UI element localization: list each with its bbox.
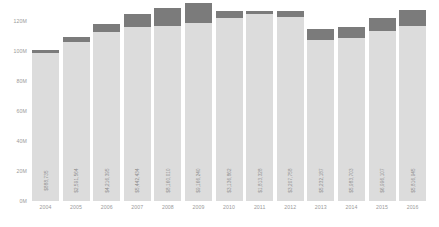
y-axis-tick-label: 60M (1, 108, 27, 114)
table-row[interactable]: $5,442,434 (124, 14, 151, 201)
table-row[interactable]: $3,207,758 (277, 11, 304, 201)
x-axis-tick-label: 2006 (93, 203, 120, 217)
y-axis-tick-label: 40M (1, 138, 27, 144)
plot-area: $888,735$2,591,564$4,216,395$5,442,434$8… (32, 6, 431, 201)
y-axis-tick-label: 100M (1, 48, 27, 54)
bar-value-label: $8,160,010 (165, 168, 170, 193)
bar-slot: $9,166,240 (185, 6, 212, 201)
bar-slot: $6,996,107 (369, 6, 396, 201)
bar-segment-base[interactable]: $4,216,395 (93, 32, 120, 201)
bar-value-label: $1,813,328 (257, 168, 262, 193)
y-axis-tick-label: 80M (1, 78, 27, 84)
y-axis-tick-label: 0M (1, 198, 27, 204)
table-row[interactable]: $3,136,862 (216, 11, 243, 202)
x-axis-tick-label: 2015 (369, 203, 396, 217)
table-row[interactable]: $5,232,187 (307, 29, 334, 202)
bar-slot: $5,816,945 (399, 6, 426, 201)
bar-segment-top[interactable] (369, 18, 396, 31)
x-axis-tick-label: 2012 (277, 203, 304, 217)
x-axis-tick-label: 2004 (32, 203, 59, 217)
x-axis-tick-label: 2011 (246, 203, 273, 217)
bar-value-label: $4,216,395 (104, 168, 109, 193)
table-row[interactable]: $888,735 (32, 50, 59, 201)
x-axis-tick-label: 2008 (154, 203, 181, 217)
bar-value-label: $5,442,434 (135, 168, 140, 193)
bar-slot: $5,442,434 (124, 6, 151, 201)
x-axis-tick-label: 2007 (124, 203, 151, 217)
bar-slot: $888,735 (32, 6, 59, 201)
bar-slot: $3,136,862 (216, 6, 243, 201)
bar-slot: $8,160,010 (154, 6, 181, 201)
bar-segment-base[interactable]: $5,983,703 (338, 38, 365, 201)
bar-segment-base[interactable]: $5,816,945 (399, 26, 426, 202)
x-axis: 2004200520062007200820092010201120122013… (32, 203, 431, 217)
table-row[interactable]: $5,983,703 (338, 27, 365, 201)
bar-segment-base[interactable]: $888,735 (32, 53, 59, 202)
table-row[interactable]: $2,591,564 (63, 37, 90, 201)
bar-slot: $5,983,703 (338, 6, 365, 201)
bar-slot: $2,591,564 (63, 6, 90, 201)
bar-segment-base[interactable]: $8,160,010 (154, 26, 181, 202)
y-axis-tick-label: 20M (1, 168, 27, 174)
bar-segment-top[interactable] (307, 29, 334, 40)
bar-segment-base[interactable]: $2,591,564 (63, 42, 90, 201)
bar-segment-top[interactable] (124, 14, 151, 27)
bar-chart: 120M100M80M60M40M20M0M $888,735$2,591,56… (0, 0, 439, 227)
y-axis-tick-label: 120M (1, 18, 27, 24)
bar-value-label: $6,996,107 (380, 168, 385, 193)
bar-segment-base[interactable]: $5,232,187 (307, 40, 334, 201)
bar-segment-base[interactable]: $9,166,240 (185, 23, 212, 202)
table-row[interactable]: $1,813,328 (246, 11, 273, 202)
x-axis-tick-label: 2013 (307, 203, 334, 217)
table-row[interactable]: $6,996,107 (369, 18, 396, 201)
bar-value-label: $3,136,862 (227, 168, 232, 193)
bar-segment-base[interactable]: $3,136,862 (216, 18, 243, 201)
bar-segment-base[interactable]: $6,996,107 (369, 31, 396, 201)
bar-segment-top[interactable] (93, 24, 120, 32)
table-row[interactable]: $4,216,395 (93, 24, 120, 201)
bar-value-label: $2,591,564 (74, 168, 79, 193)
bar-slot: $3,207,758 (277, 6, 304, 201)
bar-value-label: $5,232,187 (318, 168, 323, 193)
x-axis-tick-label: 2009 (185, 203, 212, 217)
x-axis-tick-label: 2016 (399, 203, 426, 217)
x-axis-tick-label: 2014 (338, 203, 365, 217)
table-row[interactable]: $5,816,945 (399, 10, 426, 201)
bar-value-label: $888,735 (43, 170, 48, 190)
bar-segment-top[interactable] (399, 10, 426, 26)
x-axis-tick-label: 2005 (63, 203, 90, 217)
bars-row: $888,735$2,591,564$4,216,395$5,442,434$8… (32, 6, 431, 201)
bar-slot: $1,813,328 (246, 6, 273, 201)
bar-segment-top[interactable] (154, 8, 181, 25)
x-axis-tick-label: 2010 (216, 203, 243, 217)
bar-value-label: $5,983,703 (349, 168, 354, 193)
bar-value-label: $3,207,758 (288, 168, 293, 193)
bar-slot: $4,216,395 (93, 6, 120, 201)
y-axis: 120M100M80M60M40M20M0M (0, 6, 30, 201)
table-row[interactable]: $9,166,240 (185, 3, 212, 201)
bar-segment-top[interactable] (216, 11, 243, 19)
table-row[interactable]: $8,160,010 (154, 8, 181, 201)
bar-segment-base[interactable]: $3,207,758 (277, 17, 304, 201)
bar-segment-top[interactable] (338, 27, 365, 38)
bar-value-label: $9,166,240 (196, 168, 201, 193)
bar-slot: $5,232,187 (307, 6, 334, 201)
bar-segment-base[interactable]: $1,813,328 (246, 14, 273, 201)
bar-value-label: $5,816,945 (410, 168, 415, 193)
bar-segment-base[interactable]: $5,442,434 (124, 27, 151, 201)
bar-segment-top[interactable] (185, 3, 212, 23)
